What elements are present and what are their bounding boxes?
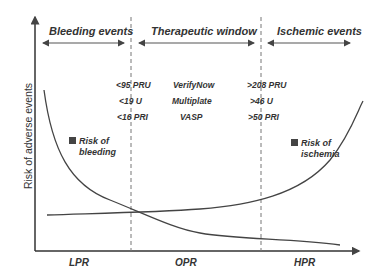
region-label-hpr: HPR (294, 257, 315, 268)
header-bleeding-events: Bleeding events (49, 25, 133, 37)
legend-ischemia-line1: Risk of (301, 138, 331, 148)
threshold-low-vasp: <16 PRI (117, 112, 148, 122)
legend-bleeding-line2: bleeding (69, 147, 116, 157)
assay-multiplate: Multiplate (172, 96, 212, 106)
threshold-low-multiplate: <19 U (119, 96, 142, 106)
region-label-opr: OPR (175, 257, 197, 268)
header-therapeutic-window: Therapeutic window (151, 25, 257, 37)
y-axis-label: Risk of adverse events (22, 76, 34, 196)
assay-verifynow: VerifyNow (173, 80, 214, 90)
header-ischemic-events: Ischemic events (277, 25, 362, 37)
threshold-low-verifynow: <95 PRU (116, 80, 151, 90)
threshold-high-verifynow: >208 PRU (247, 80, 286, 90)
threshold-high-vasp: >50 PRI (248, 112, 279, 122)
legend-bleeding: Risk of bleeding (69, 136, 116, 158)
legend-ischemia-line2: ischemia (291, 149, 340, 159)
region-label-lpr: LPR (69, 257, 89, 268)
threshold-high-multiplate: >46 U (250, 96, 273, 106)
legend-square-icon (69, 137, 76, 144)
legend-square-icon (291, 139, 298, 146)
legend-ischemia: Risk of ischemia (291, 138, 340, 160)
assay-vasp: VASP (180, 112, 203, 122)
legend-bleeding-line1: Risk of (79, 136, 109, 146)
